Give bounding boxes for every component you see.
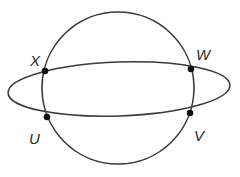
point-v bbox=[187, 110, 194, 117]
label-w: W bbox=[196, 46, 212, 63]
circle-ellipse-diagram: X W U V bbox=[0, 0, 240, 177]
label-u: U bbox=[29, 130, 40, 147]
point-u bbox=[44, 114, 51, 121]
circle bbox=[42, 12, 194, 164]
point-w bbox=[188, 66, 195, 73]
point-x bbox=[42, 68, 49, 75]
label-x: X bbox=[29, 52, 41, 69]
ellipse bbox=[7, 58, 231, 120]
diagram-canvas: X W U V bbox=[0, 0, 240, 177]
label-v: V bbox=[194, 127, 206, 144]
